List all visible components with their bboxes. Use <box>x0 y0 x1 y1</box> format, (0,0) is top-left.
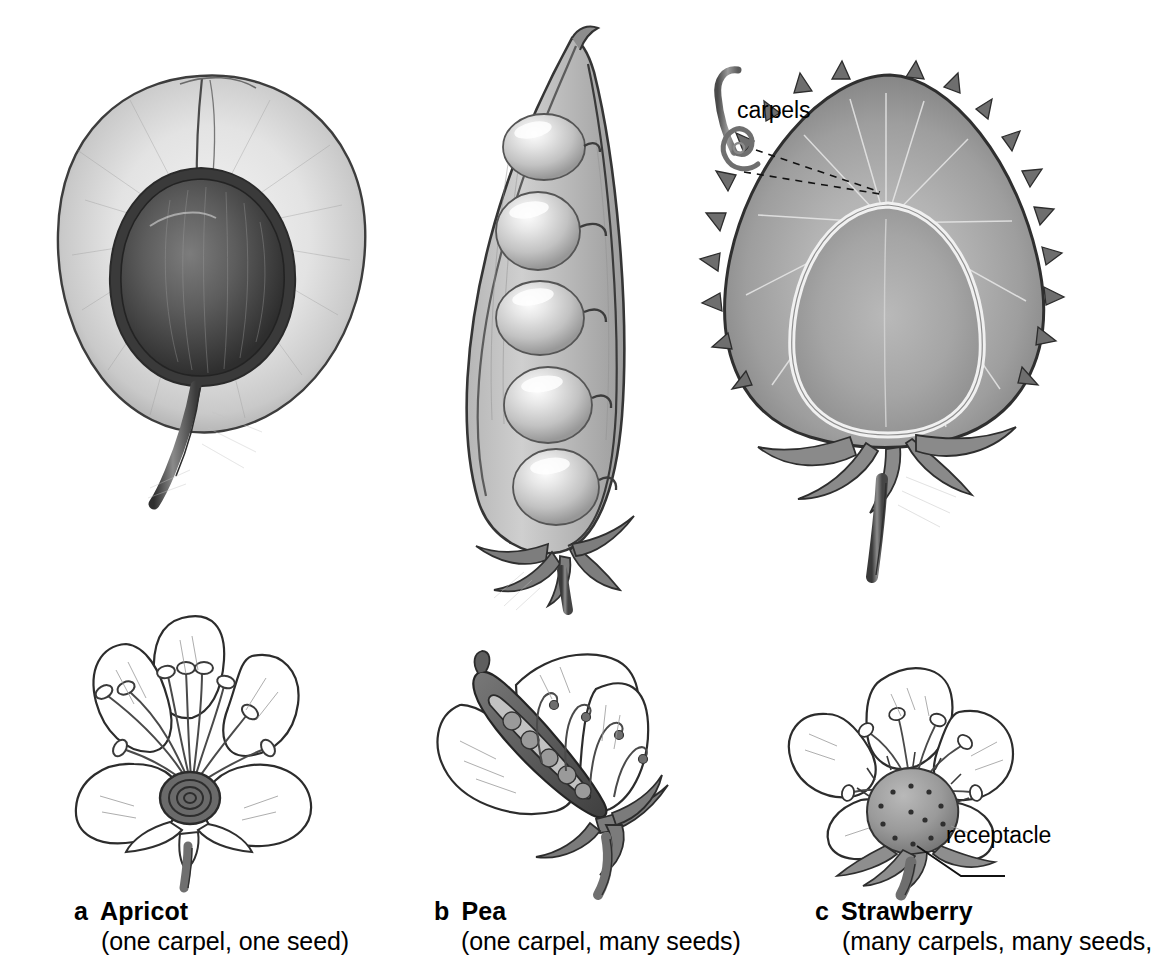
caption-pea: bPea (one carpel, many seeds) <box>434 896 741 956</box>
caption-apricot-name: Apricot <box>100 897 188 925</box>
receptacle-label: receptacle <box>946 824 1051 847</box>
caption-strawberry-letter: c <box>815 897 829 925</box>
carpel-inset-illustration <box>694 60 884 195</box>
apricot-flower-illustration <box>30 600 370 890</box>
caption-pea-name: Pea <box>461 897 506 925</box>
strawberry-flower-illustration <box>765 650 1065 895</box>
caption-pea-title: bPea <box>434 896 741 926</box>
caption-apricot-title: aApricot <box>74 896 349 926</box>
caption-pea-subtitle: (one carpel, many seeds) <box>434 926 741 956</box>
caption-strawberry-name: Strawberry <box>841 897 973 925</box>
caption-strawberry-subtitle: (many carpels, many seeds, <box>815 926 1152 956</box>
caption-pea-letter: b <box>434 897 449 925</box>
caption-strawberry: cStrawberry (many carpels, many seeds, <box>815 896 1152 956</box>
caption-strawberry-title: cStrawberry <box>815 896 1152 926</box>
carpels-label: carpels <box>737 99 810 122</box>
apricot-fruit-illustration <box>30 40 390 510</box>
caption-apricot: aApricot (one carpel, one seed) <box>74 896 349 956</box>
pea-flower-illustration <box>420 645 730 900</box>
pea-pod-illustration <box>420 20 690 610</box>
caption-apricot-letter: a <box>74 897 88 925</box>
caption-apricot-subtitle: (one carpel, one seed) <box>74 926 349 956</box>
